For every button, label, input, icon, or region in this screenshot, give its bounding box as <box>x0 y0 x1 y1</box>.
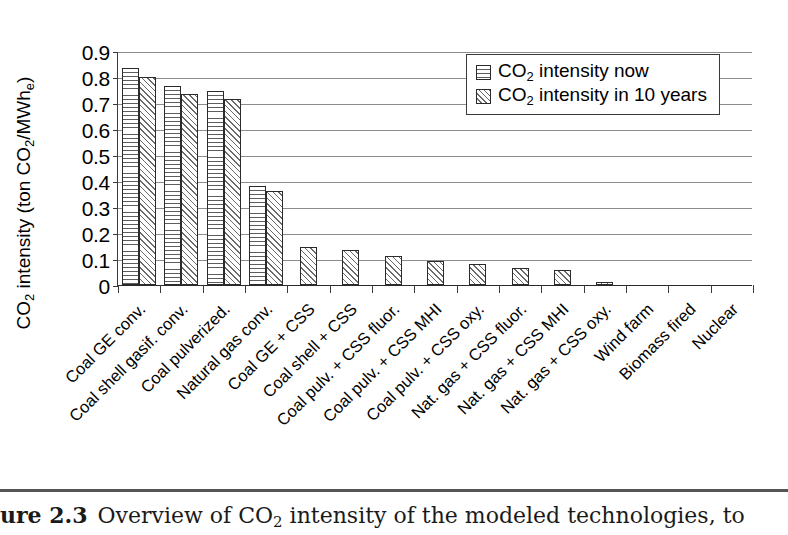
x-axis-tick-mark <box>457 285 458 293</box>
legend: CO2 intensity nowCO2 intensity in 10 yea… <box>466 54 720 115</box>
x-axis-tick-mark <box>584 285 585 293</box>
x-axis-tick-mark <box>203 285 204 293</box>
bar-group-inner <box>287 52 329 285</box>
y-axis-tick-label: 0.5 <box>82 146 110 167</box>
bar-group <box>414 52 456 285</box>
bar-co2-10-years[interactable] <box>469 264 486 285</box>
bar-co2-now[interactable] <box>249 186 266 285</box>
y-axis-tick-label: 0.7 <box>82 94 110 115</box>
y-axis-tick-label: 0.4 <box>82 172 110 193</box>
legend-swatch-icon <box>476 89 491 104</box>
bar-group <box>287 52 329 285</box>
x-axis-tick-mark <box>160 285 161 293</box>
bar-group-inner <box>203 52 245 285</box>
bar-group-inner <box>245 52 287 285</box>
legend-item[interactable]: CO2 intensity now <box>476 60 707 84</box>
x-axis-tick-mark <box>541 285 542 293</box>
bar-co2-now[interactable] <box>122 68 139 285</box>
figure-number: ure 2.3 <box>0 502 88 528</box>
x-axis-tick-mark <box>753 285 754 293</box>
y-axis-tick-label: 0.9 <box>82 42 110 63</box>
bar-co2-10-years[interactable] <box>266 191 283 285</box>
x-axis-tick-mark <box>372 285 373 293</box>
x-axis-tick-mark <box>711 285 712 293</box>
x-axis-tick-mark <box>245 285 246 293</box>
bar-co2-now[interactable] <box>164 86 181 285</box>
bar-group-inner <box>118 52 160 285</box>
x-axis-tick-mark <box>668 285 669 293</box>
bar-group-inner <box>330 52 372 285</box>
bar-co2-10-years[interactable] <box>342 250 359 285</box>
legend-label: CO2 intensity now <box>498 61 649 84</box>
bar-co2-10-years[interactable] <box>181 94 198 285</box>
x-axis-tick-mark <box>330 285 331 293</box>
bar-co2-10-years[interactable] <box>385 256 402 285</box>
y-axis-title-text: CO2 intensity (ton CO2/MWhe) <box>13 77 37 330</box>
bar-group-inner <box>160 52 202 285</box>
legend-swatch-icon <box>476 65 491 80</box>
bar-co2-10-years[interactable] <box>300 247 317 285</box>
y-axis-tick-label: 0.3 <box>82 198 110 219</box>
x-axis-tick-mark <box>118 285 119 293</box>
bar-group <box>372 52 414 285</box>
bar-co2-10-years[interactable] <box>554 270 571 285</box>
bar-co2-10-years[interactable] <box>224 99 241 285</box>
bar-group-inner <box>414 52 456 285</box>
chart-area: CO2 intensity (ton CO2/MWhe) 00.10.20.30… <box>0 0 788 470</box>
legend-item[interactable]: CO2 intensity in 10 years <box>476 84 707 108</box>
bar-co2-10-years[interactable] <box>512 268 529 285</box>
y-axis-title: CO2 intensity (ton CO2/MWhe) <box>8 86 42 320</box>
bar-co2-now[interactable] <box>207 91 224 285</box>
bar-group <box>330 52 372 285</box>
bar-co2-10-years[interactable] <box>139 77 156 285</box>
bar-group-inner <box>372 52 414 285</box>
caption-text: Overview of CO2 intensity of the modeled… <box>98 503 745 528</box>
caption-divider <box>0 489 788 492</box>
bar-co2-10-years[interactable] <box>427 261 444 285</box>
bar-group <box>203 52 245 285</box>
x-axis-tick-mark <box>287 285 288 293</box>
figure: CO2 intensity (ton CO2/MWhe) 00.10.20.30… <box>0 0 788 535</box>
figure-caption: ure 2.3Overview of CO2 intensity of the … <box>0 500 788 535</box>
y-axis-tick-label: 0 <box>99 276 110 297</box>
x-axis-tick-mark <box>414 285 415 293</box>
x-axis-tick-mark <box>626 285 627 293</box>
y-axis-tick-label: 0.2 <box>82 224 110 245</box>
y-axis-tick-label: 0.1 <box>82 250 110 271</box>
y-axis-tick-label: 0.8 <box>82 68 110 89</box>
y-axis-tick-label: 0.6 <box>82 120 110 141</box>
bar-group <box>160 52 202 285</box>
bar-group <box>245 52 287 285</box>
legend-label: CO2 intensity in 10 years <box>498 85 707 108</box>
x-axis-tick-mark <box>499 285 500 293</box>
bar-co2-10-years[interactable] <box>596 282 613 285</box>
bar-group <box>118 52 160 285</box>
